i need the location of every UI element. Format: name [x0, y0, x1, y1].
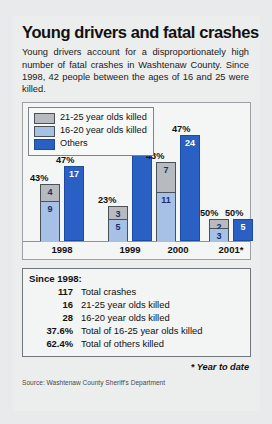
pct-label-young: 23%	[98, 195, 116, 205]
bar-young-drivers: 35	[108, 206, 128, 241]
summary-value: 28	[29, 312, 81, 325]
intro-paragraph: Young drivers account for a disproportio…	[22, 46, 249, 95]
source-line: Source: Washtenaw County Sheriff's Depar…	[22, 379, 251, 386]
summary-label: Total of others killed	[81, 338, 244, 351]
legend-label-16-20: 16-20 year olds killed	[60, 125, 147, 136]
summary-row: 117Total crashes	[29, 286, 244, 299]
bar-segment-21-25: 2	[210, 220, 228, 229]
x-axis-label: 1998	[32, 244, 92, 255]
bar-value-others: 5	[234, 222, 252, 232]
summary-label: Total of 16-25 year olds killed	[81, 325, 244, 338]
legend-item-21-25: 21-25 year olds killed	[34, 112, 147, 124]
bar-value-21-25: 4	[41, 187, 59, 197]
bar-segment-21-25: 4	[41, 185, 59, 203]
legend-label-21-25: 21-25 year olds killed	[60, 112, 147, 123]
pct-label-young: 50%	[200, 208, 218, 218]
legend-swatch-blue	[34, 139, 55, 150]
bar-value-16-20: 5	[109, 222, 127, 232]
bar-value-others: 17	[65, 169, 83, 179]
summary-label: Total crashes	[81, 286, 244, 299]
bar-value-21-25: 7	[157, 165, 175, 175]
bar-value-others: 24	[181, 138, 199, 148]
x-axis-label: 2000	[148, 244, 208, 255]
bar-value-16-20: 9	[41, 204, 59, 214]
summary-label: 21-25 year olds killed	[81, 299, 244, 312]
summary-value: 37.6%	[29, 325, 81, 338]
bar-segment-16-20: 5	[109, 220, 127, 242]
chart-legend: 21-25 year olds killed 16-20 year olds k…	[28, 107, 154, 156]
summary-row: 2816-20 year olds killed	[29, 312, 244, 325]
summary-value: 62.4%	[29, 338, 81, 351]
page-title: Young drivers and fatal crashes	[22, 24, 251, 41]
bar-others: 17	[64, 166, 84, 241]
summary-row: 37.6%Total of 16-25 year olds killed	[29, 325, 244, 338]
legend-item-16-20: 16-20 year olds killed	[34, 125, 147, 137]
summary-table: Since 1998: 117Total crashes1621-25 year…	[22, 268, 251, 357]
bar-others: 24	[180, 135, 200, 240]
legend-item-others: Others	[34, 138, 147, 150]
summary-row: 1621-25 year olds killed	[29, 299, 244, 312]
pct-label-others: 47%	[56, 155, 74, 165]
bar-young-drivers: 711	[156, 162, 176, 241]
pct-label-others: 47%	[172, 124, 190, 134]
footnote-year-to-date: * Year to date	[22, 362, 249, 372]
summary-value: 16	[29, 299, 81, 312]
infographic-page: Young drivers and fatal crashes Young dr…	[0, 0, 272, 424]
x-axis-label: 2001*	[201, 244, 261, 255]
pct-label-young: 43%	[30, 173, 48, 183]
summary-value: 117	[29, 286, 81, 299]
bar-others: 5	[233, 219, 253, 241]
bar-young-drivers: 49	[40, 184, 60, 241]
bar-segment-16-20: 11	[157, 193, 175, 241]
paper-panel: Young drivers and fatal crashes Young dr…	[13, 16, 260, 411]
bar-segment-21-25: 7	[157, 163, 175, 194]
bar-young-drivers: 23	[209, 219, 229, 241]
legend-swatch-gray	[34, 113, 55, 124]
bar-chart: 491743%47%352723%77%7112443%47%23550%50%…	[22, 102, 251, 260]
bar-segment-21-25: 3	[109, 207, 127, 220]
legend-label-others: Others	[60, 138, 88, 149]
x-axis-labels: 1998199920002001*	[23, 244, 250, 258]
bar-segment-16-20: 3	[210, 229, 228, 242]
summary-row: 62.4%Total of others killed	[29, 338, 244, 351]
bar-value-21-25: 3	[109, 209, 127, 219]
summary-heading: Since 1998:	[29, 273, 244, 284]
bar-segment-16-20: 9	[41, 202, 59, 242]
pct-label-others: 50%	[225, 208, 243, 218]
bar-value-16-20: 3	[210, 231, 228, 241]
legend-swatch-light-blue	[34, 126, 55, 137]
summary-label: 16-20 year olds killed	[81, 312, 244, 325]
bar-value-16-20: 11	[157, 195, 175, 205]
